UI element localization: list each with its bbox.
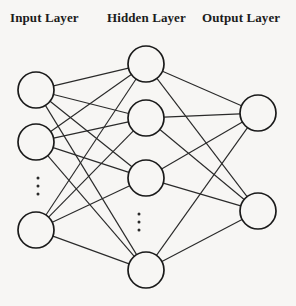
neural-network-diagram: Input Layer Hidden Layer Output Layer	[0, 0, 296, 306]
edge-h4-o2	[162, 219, 242, 261]
edge-i1-h4	[45, 105, 136, 254]
output-node-2	[240, 193, 276, 229]
edge-h2-o2	[160, 129, 244, 199]
edge-i3-h4	[53, 236, 129, 264]
hidden-node-1	[128, 46, 164, 82]
edge-i2-h1	[51, 74, 132, 131]
edge-i3-h1	[46, 79, 136, 215]
edge-h2-o1	[164, 114, 240, 117]
input-node-1	[18, 72, 54, 108]
edge-i2-h2	[54, 122, 129, 138]
edge-i3-h3	[52, 186, 129, 223]
hidden-ellipsis-dot-1	[138, 213, 141, 216]
input-node-2	[18, 124, 54, 160]
input-node-3	[18, 212, 54, 248]
hidden-ellipsis-dot-2	[138, 221, 141, 224]
output-node-1	[240, 95, 276, 131]
hidden-node-4	[128, 252, 164, 288]
input-ellipsis-dot-3	[37, 193, 40, 196]
edge-i1-h1	[54, 68, 129, 86]
hidden-node-3	[128, 160, 164, 196]
edge-h3-o1	[162, 122, 243, 169]
hidden-ellipsis-dot-3	[138, 229, 141, 232]
edge-i1-h2	[53, 94, 128, 113]
input-ellipsis-dot-2	[37, 185, 40, 188]
hidden-node-2	[128, 100, 164, 136]
edge-h1-o2	[157, 78, 247, 196]
input-ellipsis-dot-1	[37, 177, 40, 180]
network-graph	[0, 0, 296, 306]
edge-i2-h4	[48, 156, 135, 257]
nodes-group	[18, 46, 276, 288]
edge-i2-h3	[53, 148, 129, 173]
